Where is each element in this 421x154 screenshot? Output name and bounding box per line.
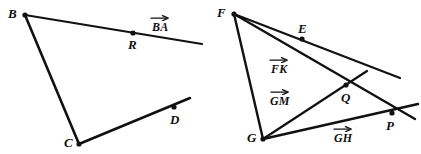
- point-label-P: P: [386, 119, 394, 132]
- vector-text-GH: GH: [334, 132, 352, 144]
- point-dot-G: [260, 136, 265, 141]
- line-segment-B-to-C: [25, 15, 79, 144]
- point-dot-R: [130, 30, 135, 35]
- geometry-figure-page: BRDCFEQGPBAFKGMGH: [0, 0, 421, 154]
- vector-arrow-icon-BA: [152, 14, 168, 21]
- point-dot-C: [76, 141, 81, 146]
- line-segment-F-to-G: [234, 14, 263, 139]
- point-dot-P: [389, 110, 394, 115]
- vector-text-GM: GM: [270, 95, 290, 107]
- point-label-D: D: [170, 113, 179, 126]
- point-dot-D: [171, 104, 176, 109]
- vector-arrow-icon-GM: [270, 88, 290, 95]
- point-label-R: R: [128, 38, 137, 51]
- point-label-F: F: [217, 6, 226, 19]
- vector-arrow-icon-FK: [271, 56, 287, 63]
- vector-arrow-icon-GH: [334, 125, 352, 132]
- point-label-B: B: [8, 7, 17, 20]
- vector-label-FK: FK: [271, 56, 287, 75]
- point-label-Q: Q: [341, 91, 350, 104]
- point-dot-F: [231, 11, 236, 16]
- point-label-G: G: [247, 131, 256, 144]
- vector-label-GH: GH: [334, 125, 352, 144]
- point-label-C: C: [64, 136, 73, 149]
- line-ray-F-through-Q: [234, 14, 415, 119]
- line-ray-F-through-E: [234, 14, 400, 78]
- right-figure-points: [231, 11, 394, 141]
- point-dot-B: [22, 12, 27, 17]
- figure-canvas: [0, 0, 421, 154]
- point-dot-Q: [343, 82, 348, 87]
- point-label-E: E: [298, 22, 307, 35]
- vector-text-BA: BA: [152, 21, 168, 33]
- line-ray-B-through-R: [25, 15, 202, 44]
- vector-text-FK: FK: [271, 63, 287, 75]
- vector-label-GM: GM: [270, 88, 290, 107]
- vector-label-BA: BA: [152, 14, 168, 33]
- point-dot-E: [299, 36, 304, 41]
